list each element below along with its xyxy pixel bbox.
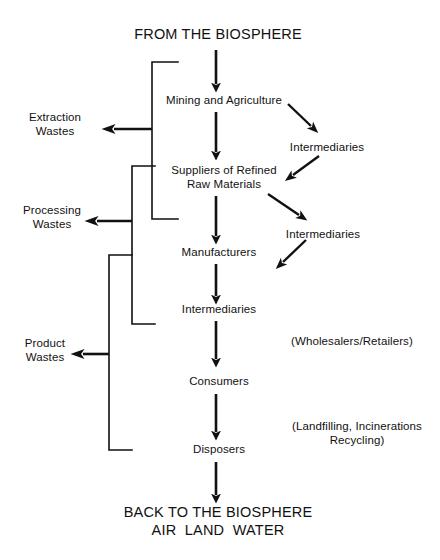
arrow-intermediaries-upper-to-suppliers [293, 156, 319, 175]
node-intermediaries-upper: Intermediaries [290, 140, 364, 154]
annotation-wholesalers-retailers: (Wholesalers/Retailers) [291, 334, 413, 348]
materials-flow-diagram: FROM THE BIOSPHERE Mining and Agricultur… [0, 0, 440, 560]
arrow-mining-to-intermediaries-upper [288, 104, 311, 126]
waste-extraction-line1: Extraction [29, 110, 81, 124]
waste-processing-line2: Wastes [33, 217, 72, 231]
node-intermediaries-center: Intermediaries [182, 302, 256, 316]
annotation-disposal-methods-line1: (Landfilling, Incinerations [292, 419, 422, 433]
waste-extraction-line2: Wastes [36, 124, 75, 138]
node-disposers: Disposers [193, 442, 245, 456]
node-consumers: Consumers [189, 374, 249, 388]
waste-arrows [83, 129, 152, 354]
bracket-product [109, 255, 132, 450]
heading-from-the-biosphere: FROM THE BIOSPHERE [134, 25, 302, 43]
node-intermediaries-lower: Intermediaries [286, 227, 360, 241]
arrow-suppliers-to-intermediaries-lower [268, 194, 299, 215]
heading-air-land-water: AIR LAND WATER [152, 521, 285, 539]
node-mining-and-agriculture: Mining and Agriculture [166, 93, 282, 107]
waste-brackets [109, 62, 178, 450]
node-manufacturers: Manufacturers [182, 245, 257, 259]
flow-connectors-svg [0, 0, 440, 560]
node-suppliers-of-refined-raw-materials-line1: Suppliers of Refined [171, 163, 277, 177]
annotation-disposal-methods-line2: Recycling) [330, 433, 385, 447]
node-suppliers-of-refined-raw-materials-line2: Raw Materials [187, 177, 261, 191]
waste-product-line1: Product [25, 336, 65, 350]
waste-processing-line1: Processing [23, 203, 81, 217]
waste-product-line2: Wastes [26, 350, 65, 364]
arrow-intermediaries-lower-to-manufacturers [283, 240, 306, 262]
heading-back-to-the-biosphere: BACK TO THE BIOSPHERE [124, 503, 313, 521]
bracket-extraction [152, 62, 178, 219]
